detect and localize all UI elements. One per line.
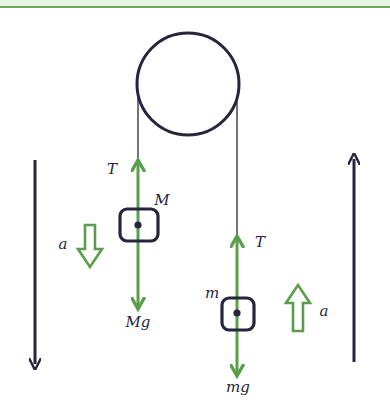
label-weight-mg: mg xyxy=(226,378,250,396)
atwood-machine-diagram: T M Mg a T m mg a xyxy=(0,0,390,418)
label-mass-M: M xyxy=(153,191,170,209)
mass-M-acceleration-arrow-icon xyxy=(78,225,102,267)
mass-m-acceleration-arrow-icon xyxy=(286,285,310,331)
label-weight-Mg: Mg xyxy=(125,313,151,331)
label-mass-m: m xyxy=(205,284,219,302)
pulley-wheel xyxy=(137,33,239,135)
header-line xyxy=(0,6,390,8)
label-accel-m: a xyxy=(320,302,329,320)
mass-M-center-dot xyxy=(134,221,141,228)
diagram-canvas: T M Mg a T m mg a xyxy=(0,0,390,418)
label-tension-m: T xyxy=(255,233,266,251)
label-tension-M: T xyxy=(107,160,118,178)
header-tint xyxy=(0,0,390,6)
mass-m-center-dot xyxy=(233,309,240,316)
label-accel-M: a xyxy=(59,235,68,253)
